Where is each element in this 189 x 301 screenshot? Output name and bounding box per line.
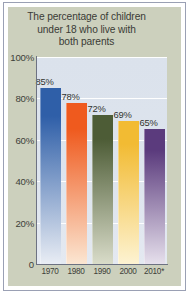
y-tick-label-100: 100% <box>0 52 34 63</box>
y-tick-label-0: 0 <box>0 259 34 270</box>
y-tick-label-40: 40% <box>0 176 34 187</box>
y-tick-label-20: 20% <box>0 217 34 228</box>
bar-slot: 85% <box>40 57 61 264</box>
bar-slot: 65% <box>144 57 165 264</box>
y-axis-line <box>36 56 37 265</box>
y-axis-ticks: 100%80%60%40%20%0 <box>0 0 34 301</box>
bar-value-label: 85% <box>36 76 66 87</box>
plot-area-wrapper: 85%78%72%69%65% <box>37 57 167 264</box>
bar-series: 85%78%72%69%65% <box>37 57 167 264</box>
x-axis-ticks: 19701980199020002010* <box>37 267 168 281</box>
y-tick-label-80: 80% <box>0 93 34 104</box>
bar[interactable] <box>118 121 139 264</box>
bar[interactable] <box>66 103 87 264</box>
x-tick-label-2010star: 2010* <box>139 267 169 276</box>
bar-value-label: 65% <box>140 117 170 128</box>
bar[interactable] <box>92 115 113 264</box>
chart-figure: The percentage of children under 18 who … <box>0 0 189 301</box>
bar[interactable] <box>144 129 165 264</box>
footer-sliver <box>8 294 180 299</box>
bar-value-label: 78% <box>62 91 92 102</box>
x-axis-line <box>36 264 168 265</box>
bar-slot: 69% <box>118 57 139 264</box>
bar-slot: 78% <box>66 57 87 264</box>
bar[interactable] <box>40 88 61 264</box>
bar-slot: 72% <box>92 57 113 264</box>
y-tick-label-60: 60% <box>0 134 34 145</box>
